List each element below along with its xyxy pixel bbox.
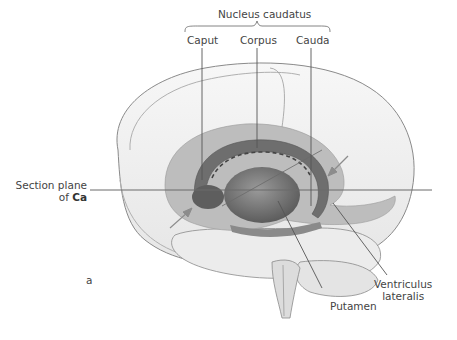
- section-ref-bold: Ca: [72, 191, 87, 203]
- label-caput: Caput: [187, 34, 218, 46]
- brain-diagram: Nucleus caudatus Caput Corpus Cauda Sect…: [0, 0, 457, 340]
- label-section-plane: Section plane of Ca: [16, 179, 87, 203]
- putamen-shape: [224, 167, 300, 223]
- section-plane-line2: of Ca: [16, 191, 87, 203]
- label-cauda: Cauda: [296, 34, 330, 46]
- label-ventriculus-lateralis: Ventriculus lateralis: [374, 278, 432, 302]
- label-putamen: Putamen: [330, 300, 377, 312]
- nucleus-caudatus-brace: [185, 21, 330, 32]
- panel-letter: a: [86, 274, 92, 286]
- section-plane-line1: Section plane: [16, 179, 87, 191]
- label-nucleus-caudatus: Nucleus caudatus: [218, 8, 311, 20]
- label-corpus: Corpus: [240, 34, 277, 46]
- caput-shape: [192, 185, 224, 209]
- brainstem: [272, 260, 300, 318]
